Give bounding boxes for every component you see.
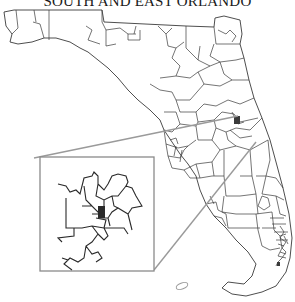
district-lines-southwest — [206, 196, 260, 228]
leader-line-top — [34, 116, 238, 158]
district-lines-south-central — [222, 140, 284, 214]
lake-outline — [258, 196, 270, 210]
inset-dense-cluster — [98, 206, 105, 218]
miami-dense-marker — [277, 262, 280, 266]
leader-line-bottom — [154, 142, 256, 270]
district-lines-central — [150, 76, 268, 150]
florida-map — [0, 0, 295, 302]
key-island — [175, 281, 188, 291]
district-lines-tampa — [164, 130, 224, 178]
district-lines-northeast — [172, 27, 249, 86]
district-lines-panhandle — [12, 10, 186, 48]
district-lines-southeast — [256, 196, 288, 258]
